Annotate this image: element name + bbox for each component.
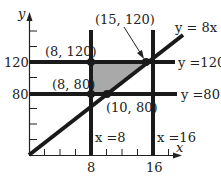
arrow-head-icon: [137, 50, 144, 59]
point-8-120: [87, 58, 95, 66]
y-tick-label-120: 120: [4, 55, 29, 70]
x-tick-label-16: 16: [146, 160, 163, 175]
label-point-10-80: (10, 80): [106, 100, 158, 115]
label-line-y80: y =80: [180, 87, 220, 102]
label-line-x16: x =16: [157, 130, 196, 145]
point-10-80: [103, 90, 111, 98]
chart: y x 120 80 8 16 y = 8x y =120 y =80 x =8…: [0, 0, 221, 181]
point-15-120: [142, 58, 150, 66]
y-axis-arrow-icon: [27, 12, 33, 21]
label-line-y120: y =120: [177, 55, 221, 70]
y-axis-label: y: [17, 6, 26, 21]
y-ticks: [29, 31, 37, 140]
x-ticks: [45, 149, 169, 155]
label-line-8x: y = 8x: [174, 20, 218, 35]
annotation-arrow: [124, 27, 141, 54]
x-tick-label-8: 8: [87, 160, 95, 175]
label-point-8-120: (8, 120): [45, 44, 97, 59]
feasible-region: [91, 62, 145, 93]
label-point-8-80: (8, 80): [52, 77, 95, 92]
y-tick-label-80: 80: [12, 87, 29, 102]
label-line-x8: x =8: [95, 130, 126, 145]
label-point-15-120: (15, 120): [95, 12, 155, 27]
